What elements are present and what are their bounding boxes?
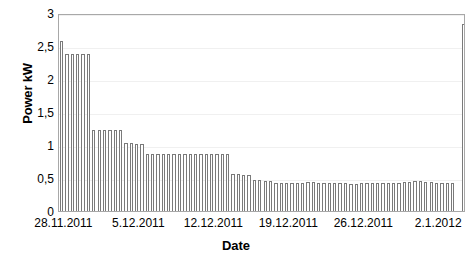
bar (98, 130, 101, 211)
bar (392, 183, 395, 211)
bar (451, 183, 454, 211)
bar (71, 54, 74, 211)
y-tick-label: 3 (22, 8, 54, 20)
bar (333, 183, 336, 211)
bar (130, 143, 133, 211)
x-tick-label: 28.11.2011 (34, 216, 92, 230)
bar (408, 182, 411, 211)
bar (317, 183, 320, 211)
bar (65, 54, 68, 211)
bar (413, 181, 416, 211)
bar (349, 184, 352, 211)
bar (306, 182, 309, 211)
bar (280, 183, 283, 211)
y-tick-label: 2,5 (22, 41, 54, 53)
bar (344, 183, 347, 211)
y-tick-label: 1 (22, 140, 54, 152)
bar (269, 181, 272, 211)
bar (119, 130, 122, 211)
bar (435, 183, 438, 211)
power-vs-date-bar-chart: Power kW 00,511,522,53 28.11.20115.12.20… (0, 0, 472, 268)
bar (146, 154, 149, 211)
bars-layer (59, 15, 464, 211)
bar (162, 154, 165, 211)
bar (87, 54, 90, 211)
bar (151, 154, 154, 211)
bar (92, 130, 95, 211)
bar (103, 130, 106, 211)
bar (226, 154, 229, 211)
bar (430, 182, 433, 211)
bar (221, 154, 224, 211)
bar (81, 54, 84, 211)
x-tick-label: 19.12.2011 (259, 216, 318, 230)
bar (440, 183, 443, 211)
bar (419, 181, 422, 211)
x-axis-tick-labels: 28.11.20115.12.201112.12.201119.12.20112… (0, 216, 472, 234)
bar (205, 154, 208, 211)
bar (242, 175, 245, 211)
bar (135, 144, 138, 211)
bar (258, 180, 261, 211)
bar (167, 154, 170, 211)
bar (274, 183, 277, 211)
bar (210, 154, 213, 211)
bar (296, 183, 299, 211)
bar (264, 181, 267, 211)
bar (247, 175, 250, 211)
plot-area (58, 14, 465, 212)
bar (231, 174, 234, 211)
bar (376, 183, 379, 211)
bar (76, 54, 79, 211)
bar (338, 183, 341, 211)
bar (215, 154, 218, 211)
bar (108, 130, 111, 211)
bar (183, 154, 186, 211)
bar (301, 183, 304, 211)
bar (290, 183, 293, 211)
bar (365, 183, 368, 211)
x-tick-label: 2.1.2012 (415, 216, 462, 230)
bar (237, 174, 240, 211)
bar (253, 180, 256, 211)
bar (114, 130, 117, 211)
bar (387, 183, 390, 211)
bar (312, 182, 315, 211)
bar (328, 183, 331, 211)
bar (371, 183, 374, 211)
bar (199, 154, 202, 211)
y-tick-label: 2 (22, 74, 54, 86)
x-tick-label: 12.12.2011 (184, 216, 243, 230)
bar (360, 183, 363, 211)
bar (397, 183, 400, 211)
bar (462, 24, 465, 211)
bar (424, 182, 427, 211)
x-axis-title: Date (0, 238, 472, 253)
y-tick-label: 1,5 (22, 107, 54, 119)
bar (140, 144, 143, 211)
bar (194, 154, 197, 211)
x-tick-label: 26.12.2011 (334, 216, 393, 230)
bar (178, 154, 181, 211)
x-tick-label: 5.12.2011 (112, 216, 165, 230)
bar (446, 183, 449, 211)
bar (285, 183, 288, 211)
bar (172, 154, 175, 211)
bar (403, 182, 406, 211)
bar (322, 183, 325, 211)
bar (381, 183, 384, 211)
bar (124, 143, 127, 211)
bar (189, 154, 192, 211)
y-tick-label: 0,5 (22, 173, 54, 185)
bar (60, 41, 63, 211)
bar (156, 154, 159, 211)
bar (355, 184, 358, 211)
